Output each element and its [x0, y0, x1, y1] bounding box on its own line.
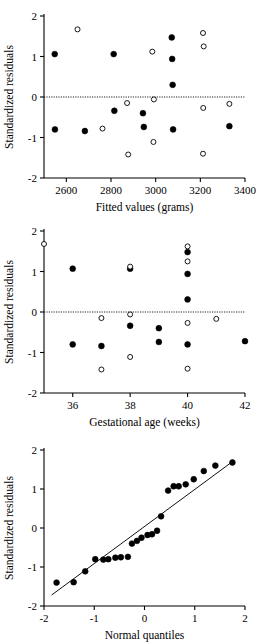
data-point — [151, 97, 156, 102]
y-axis-title: Standardized residuals — [3, 476, 15, 580]
data-point — [128, 264, 133, 269]
series-filled — [70, 249, 248, 349]
data-point — [183, 481, 189, 487]
panel-residuals-vs-fitted: -2-101226002800300032003400Fitted values… — [0, 0, 257, 215]
y-tick-label: -1 — [28, 347, 37, 359]
x-tick-label: -1 — [90, 612, 99, 624]
y-axis-ticks: -2-1012 — [28, 225, 44, 399]
data-point — [42, 241, 47, 246]
y-tick-label: -2 — [28, 172, 37, 184]
y-tick-label: -1 — [28, 561, 37, 573]
data-point — [70, 342, 76, 348]
axes — [44, 229, 245, 393]
y-tick-label: 2 — [32, 225, 38, 237]
plot-normal-quantile-plot: -2-1012-2-1012Normal quantilesStandardiz… — [0, 428, 257, 642]
x-axis-title: Fitted values (grams) — [96, 201, 194, 214]
data-point — [99, 316, 104, 321]
series-open — [75, 27, 232, 157]
y-axis-title: Standardized residuals — [3, 260, 15, 364]
plot-residuals-vs-gestational-age: -2-101236384042Gestational age (weeks)St… — [0, 215, 257, 430]
data-point — [169, 56, 175, 62]
data-point — [52, 51, 58, 57]
data-point — [99, 367, 104, 372]
data-point — [71, 579, 77, 585]
data-point — [158, 513, 164, 519]
data-point — [242, 338, 248, 344]
x-tick-label: 3000 — [145, 184, 168, 196]
normal-reference-line — [52, 461, 234, 596]
data-point — [201, 44, 206, 49]
data-point — [125, 101, 130, 106]
data-point — [54, 580, 60, 586]
data-point — [127, 323, 133, 329]
data-point — [212, 463, 218, 469]
data-point — [75, 27, 80, 32]
data-point — [141, 124, 147, 130]
data-point — [100, 126, 105, 131]
y-tick-label: 0 — [32, 306, 38, 318]
data-point — [185, 244, 190, 249]
data-point — [149, 531, 155, 537]
data-point — [185, 320, 190, 325]
data-point — [201, 468, 207, 474]
data-point — [185, 366, 190, 371]
y-tick-label: 1 — [32, 51, 38, 63]
x-tick-label: 3400 — [234, 184, 257, 196]
data-point — [201, 31, 206, 36]
data-point — [191, 476, 197, 482]
data-point — [128, 354, 133, 359]
data-point — [165, 488, 171, 494]
data-point — [227, 101, 232, 106]
y-tick-label: 1 — [32, 483, 38, 495]
x-tick-label: 42 — [240, 399, 251, 411]
y-tick-label: -1 — [28, 132, 37, 144]
x-axis-title: Normal quantiles — [105, 629, 185, 642]
data-point — [105, 556, 111, 562]
data-point — [156, 325, 162, 331]
x-tick-label: 40 — [182, 399, 194, 411]
data-point — [112, 555, 118, 561]
data-point — [150, 49, 155, 54]
data-point — [201, 105, 206, 110]
data-point — [82, 128, 88, 134]
data-point — [125, 554, 131, 560]
data-point — [185, 297, 191, 303]
data-point — [118, 554, 124, 560]
series-filled — [52, 35, 232, 134]
x-tick-label: -2 — [39, 612, 48, 624]
series-open — [42, 241, 219, 372]
y-tick-label: 2 — [32, 444, 38, 456]
x-tick-label: 3200 — [189, 184, 212, 196]
data-point — [70, 266, 76, 272]
panel-residuals-vs-gestational-age: -2-101236384042Gestational age (weeks)St… — [0, 215, 257, 430]
x-tick-label: 0 — [142, 612, 148, 624]
data-point — [128, 312, 133, 317]
data-point — [156, 339, 162, 345]
x-axis-ticks: -2-1012 — [39, 606, 247, 624]
data-point — [52, 126, 58, 132]
x-axis-ticks: 26002800300032003400 — [55, 178, 256, 196]
y-tick-label: -2 — [28, 387, 37, 399]
series-filled — [54, 460, 236, 586]
x-axis-ticks: 36384042 — [67, 393, 250, 411]
data-point — [139, 535, 145, 541]
data-point — [170, 82, 176, 88]
x-tick-label: 2600 — [55, 184, 78, 196]
data-point — [185, 342, 191, 348]
y-axis-ticks: -2-1012 — [28, 10, 44, 184]
y-axis-title: Standardized residuals — [3, 45, 15, 149]
data-point — [154, 528, 160, 534]
data-point — [170, 126, 176, 132]
x-tick-label: 1 — [192, 612, 198, 624]
y-tick-label: 0 — [32, 91, 38, 103]
x-tick-label: 2800 — [100, 184, 123, 196]
y-tick-label: 2 — [32, 10, 38, 22]
data-point — [151, 139, 156, 144]
y-tick-label: 0 — [32, 522, 38, 534]
x-tick-label: 36 — [67, 399, 79, 411]
data-point — [185, 249, 191, 255]
y-tick-label: -2 — [28, 600, 37, 612]
data-point — [111, 108, 117, 114]
data-point — [214, 316, 219, 321]
figure-container: -2-101226002800300032003400Fitted values… — [0, 0, 257, 642]
